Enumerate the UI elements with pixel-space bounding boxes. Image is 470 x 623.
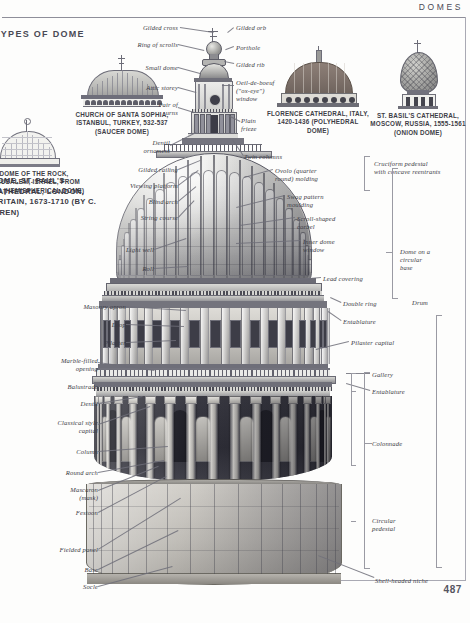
drum-graphic	[100, 308, 328, 364]
drum-pilaster	[221, 308, 230, 364]
pedestal-seam	[335, 484, 336, 574]
lantern-column	[222, 84, 224, 109]
page-header-title: DOMES	[419, 2, 463, 12]
st-basils-drawing	[385, 40, 451, 110]
label-dentil-ornament: Dentil ornament	[95, 139, 170, 155]
label-gilded-cross: Gilded cross	[118, 24, 178, 32]
label-mascaron: Mascaron (mask)	[24, 486, 98, 502]
label-blind-arch: Blind arch	[96, 198, 178, 206]
bracket-dome-on-circular-base	[392, 168, 393, 298]
dome-panel	[265, 189, 274, 276]
leader-gallery	[346, 373, 370, 374]
label-drop: Drop	[52, 321, 126, 329]
dome-panel	[203, 170, 214, 276]
drum-window	[323, 320, 327, 348]
leader-oeil-de-boeuf	[222, 85, 234, 86]
bracket-tick	[364, 190, 370, 191]
label-classical-style-capital: Classical style capital	[12, 419, 98, 435]
bracket-pointer	[364, 443, 372, 444]
dome-ring	[2, 137, 52, 138]
bracket-drum	[436, 315, 437, 567]
pedestal-seam	[238, 484, 239, 574]
dome-ring	[2, 149, 52, 150]
lantern-column	[198, 84, 200, 109]
pedestal-seam	[300, 484, 301, 574]
drum-window	[230, 320, 241, 348]
label-roll: Roll	[76, 265, 154, 273]
label-entablature-lower: Entablature	[372, 388, 446, 396]
drum-window	[299, 320, 306, 348]
dome-panel	[242, 176, 252, 276]
label-socle: Socle	[34, 583, 98, 591]
drum-pilaster	[180, 308, 189, 364]
pedestal-seam	[167, 484, 168, 574]
colonnade-shading-overlay	[94, 396, 332, 482]
bracket-tick	[351, 465, 356, 466]
label-twin-columns: Twin columns	[244, 153, 320, 161]
label-marble-filled-opening: Marble-filled opening	[18, 357, 98, 373]
label-light-well: Light well	[76, 246, 154, 254]
dome-panel	[308, 259, 312, 276]
label-cruciform-pedestal: Cruciform pedestal with concave reentran…	[374, 160, 468, 176]
pedestal-course	[89, 550, 339, 551]
bracket-tick	[436, 567, 442, 568]
dome-panel	[216, 170, 227, 276]
drum-window	[189, 320, 200, 348]
dome-ring	[2, 155, 52, 156]
drum-window	[250, 320, 260, 348]
label-fielded-panel: Fielded panel	[14, 546, 98, 554]
types-of-dome-heading: TYPES OF DOME	[0, 29, 85, 39]
bracket-tick	[364, 568, 370, 569]
drum-window	[170, 320, 180, 348]
lantern-column	[228, 84, 230, 109]
dome-panel	[178, 176, 188, 276]
bracket-tick	[392, 168, 398, 169]
label-colonnade: Colonnade	[372, 440, 436, 448]
page-number: 487	[444, 584, 463, 595]
label-base: Base	[34, 566, 98, 574]
onion-cap	[400, 52, 438, 94]
bracket-tick	[351, 521, 356, 522]
label-entablature-upper: Entablature	[343, 318, 417, 326]
bracket-tick	[351, 373, 356, 374]
bracket-colonnade	[364, 372, 365, 568]
lantern-column	[204, 84, 206, 109]
label-pilaster: Pilaster	[46, 339, 126, 347]
label-masonry-apron: Masonry apron	[40, 303, 126, 311]
arcade-window	[85, 100, 90, 105]
label-ovolo-molding: Ovolo (quarter round) molding	[275, 167, 359, 183]
dome-of-the-rock-drawing	[0, 120, 60, 168]
label-inner-dome-window: Inner dome window	[303, 238, 377, 254]
drum-pilaster	[241, 308, 250, 364]
label-dome-on-circular-base: Dome on a circular base	[400, 248, 462, 273]
bracket-cruciform	[364, 156, 365, 190]
label-small-dome: Small dome	[110, 64, 178, 72]
pedestal-course	[89, 506, 339, 507]
label-ring-of-scrolls: Ring of scrolls	[108, 41, 178, 49]
pedestal-seam	[101, 484, 102, 574]
label-porthole: Porthole	[236, 44, 312, 52]
pedestal-seam	[214, 484, 215, 574]
page-root: DOMES 487 TYPES OF DOME DOME, ST. PAUL'S…	[0, 0, 470, 623]
label-plain-frieze: Plain frieze	[241, 117, 301, 133]
label-gilded-rib: Gilded rib	[236, 61, 312, 69]
label-balustrade: Balustrade	[22, 383, 98, 391]
pedestal-seam	[316, 484, 317, 574]
label-pilaster-capital: Pilaster capital	[351, 339, 431, 347]
bracket-tick	[351, 391, 356, 392]
label-dentil: Dentil	[30, 400, 98, 408]
label-lead-covering: Lead covering	[323, 275, 403, 283]
pedestal-seam	[190, 484, 191, 574]
label-gilded-railing: Gilded railing	[96, 166, 178, 174]
dome-rib	[27, 131, 28, 158]
label-scroll-shaped-corbel: Scroll-shaped corbel	[297, 215, 373, 231]
label-drum: Drum	[412, 299, 466, 307]
label-round-arch: Round arch	[16, 469, 98, 477]
drum-window	[268, 320, 278, 348]
label-attic-storey: Attic storey	[110, 84, 178, 92]
dome-panel	[229, 172, 240, 276]
label-viewing-platform: Viewing platform	[88, 182, 178, 190]
base-plinth	[0, 164, 60, 167]
pedestal-seam	[327, 484, 328, 574]
gilded-cross-graphic	[212, 28, 213, 42]
